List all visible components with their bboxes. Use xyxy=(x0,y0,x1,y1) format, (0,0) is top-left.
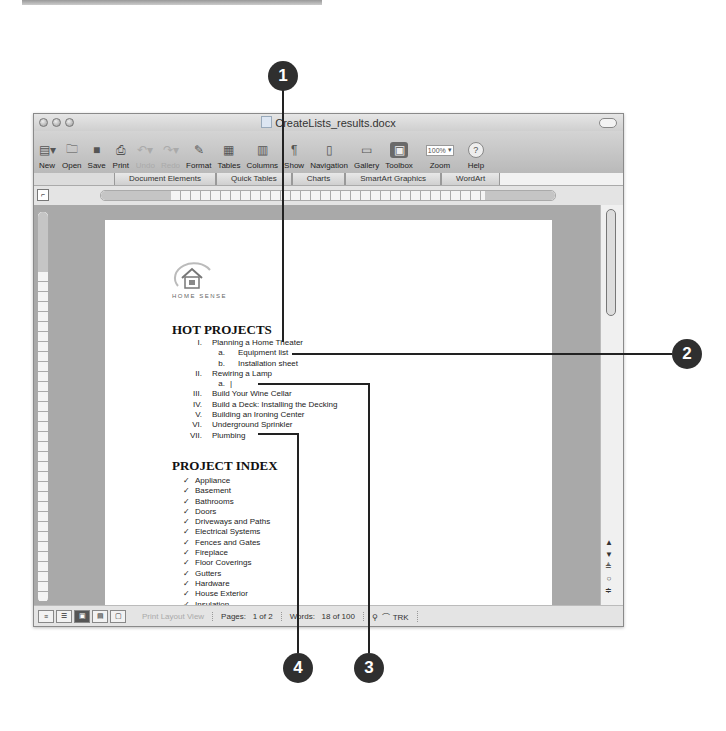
notebook-view-button[interactable]: ▤ xyxy=(92,610,108,623)
spelling-check-icon[interactable]: ⚲ xyxy=(372,613,378,622)
publishing-view-button[interactable]: ▢ xyxy=(110,610,126,623)
scroll-down-arrow-icon[interactable]: ▼ xyxy=(605,550,613,559)
undo-label: Undo xyxy=(136,161,155,173)
callout-1: 1 xyxy=(268,61,298,91)
callout-2-leader xyxy=(292,353,672,355)
track-changes-icon: ⌒ xyxy=(382,613,390,622)
list-item[interactable]: III.Build Your Wine Cellar xyxy=(172,389,422,399)
tab-charts[interactable]: Charts xyxy=(292,173,346,185)
list-text: Build a Deck: Installing the Decking xyxy=(212,400,337,410)
list-text: House Exterior xyxy=(195,589,248,599)
scrollbar-thumb[interactable] xyxy=(606,209,616,316)
document-page[interactable]: HOME SENSE HOT PROJECTS I.Planning a Hom… xyxy=(105,220,552,606)
navigation-pane-icon: ▯ xyxy=(320,142,338,158)
zoom-select[interactable]: 100%▾ xyxy=(426,145,454,156)
list-item[interactable]: ✓Fences and Gates xyxy=(183,538,383,548)
printer-icon: ⎙ xyxy=(112,142,130,158)
checkmark-bullet-icon: ✓ xyxy=(183,538,190,548)
tab-smartart-graphics[interactable]: SmartArt Graphics xyxy=(345,173,441,185)
project-index-list: ✓Appliance ✓Basement ✓Bathrooms ✓Doors ✓… xyxy=(183,476,383,610)
undo-button[interactable]: ↶▾Undo xyxy=(136,142,155,173)
list-item[interactable]: ✓Basement xyxy=(183,486,383,496)
tables-button[interactable]: ▦Tables xyxy=(217,142,240,173)
zoom-control[interactable]: 100%▾Zoom xyxy=(425,142,455,173)
navigation-button[interactable]: ▯Navigation xyxy=(310,142,348,173)
list-item[interactable]: ✓Fireplace xyxy=(183,548,383,558)
toolbox-button[interactable]: ▣Toolbox xyxy=(385,142,413,173)
list-item[interactable]: ✓House Exterior xyxy=(183,589,383,599)
list-text: Build Your Wine Cellar xyxy=(212,389,292,399)
redo-label: Redo xyxy=(161,161,180,173)
list-item[interactable]: V.Building an Ironing Center xyxy=(172,410,422,420)
view-buttons: ≡ ☰ ▣ ▤ ▢ xyxy=(38,610,126,623)
list-text: Basement xyxy=(195,486,231,496)
list-item[interactable]: ✓Gutters xyxy=(183,569,383,579)
list-number: II. xyxy=(172,369,202,379)
list-text: Driveways and Paths xyxy=(195,517,270,527)
gallery-button[interactable]: ▭Gallery xyxy=(354,142,379,173)
toolbar-toggle-button[interactable] xyxy=(599,118,617,128)
list-item[interactable]: ✓Floor Coverings xyxy=(183,558,383,568)
browse-object-icon[interactable]: ○ xyxy=(607,574,612,583)
new-button[interactable]: ▤▾New xyxy=(38,142,56,173)
list-text: Fireplace xyxy=(195,548,228,558)
vertical-scrollbar[interactable]: ▲ ▼ ≜ ○ ≑ xyxy=(600,205,623,606)
horizontal-ruler[interactable] xyxy=(100,190,556,201)
list-item[interactable]: ✓Hardware xyxy=(183,579,383,589)
format-label: Format xyxy=(186,161,211,173)
checkmark-bullet-icon: ✓ xyxy=(183,507,190,517)
tab-wordart[interactable]: WordArt xyxy=(441,173,500,185)
document-workspace: HOME SENSE HOT PROJECTS I.Planning a Hom… xyxy=(34,205,600,606)
browse-buttons: ▲ ▼ ≜ ○ ≑ xyxy=(605,538,613,595)
outline-view-button[interactable]: ☰ xyxy=(56,610,72,623)
print-layout-view-button[interactable]: ▣ xyxy=(74,610,90,623)
list-item[interactable]: VI.Underground Sprinkler xyxy=(172,420,422,430)
show-button[interactable]: ¶Show xyxy=(284,142,304,173)
callout-3: 3 xyxy=(354,653,384,683)
hot-projects-heading: HOT PROJECTS xyxy=(172,322,272,338)
open-label: Open xyxy=(62,161,82,173)
left-margin-marker[interactable] xyxy=(101,191,171,200)
list-text: Building an Ironing Center xyxy=(212,410,305,420)
floppy-save-icon: ■ xyxy=(88,142,106,158)
save-button[interactable]: ■Save xyxy=(88,142,106,173)
track-changes-label[interactable]: TRK xyxy=(393,613,409,622)
columns-button[interactable]: ▥Columns xyxy=(247,142,279,173)
tab-quick-tables[interactable]: Quick Tables xyxy=(216,173,292,185)
vertical-ruler[interactable] xyxy=(37,211,49,603)
list-item[interactable]: II.Rewiring a Lamp xyxy=(172,369,422,379)
project-index-heading: PROJECT INDEX xyxy=(172,458,278,474)
right-margin-marker[interactable] xyxy=(485,191,555,200)
pages-label: Pages: xyxy=(221,612,246,621)
word-count[interactable]: Words: 18 of 100 xyxy=(282,612,364,621)
list-text: Electrical Systems xyxy=(195,527,260,537)
list-item[interactable]: I.Planning a Home Theater xyxy=(172,338,422,348)
text-cursor: | xyxy=(230,379,232,389)
redo-button[interactable]: ↷▾Redo xyxy=(161,142,180,173)
draft-view-button[interactable]: ≡ xyxy=(38,610,54,623)
checkmark-bullet-icon: ✓ xyxy=(183,497,190,507)
list-text: Planning a Home Theater xyxy=(212,338,303,348)
list-item[interactable]: ✓Doors xyxy=(183,507,383,517)
previous-page-icon[interactable]: ≜ xyxy=(605,562,612,571)
print-button[interactable]: ⎙Print xyxy=(112,142,130,173)
pages-count[interactable]: Pages: 1 of 2 xyxy=(213,612,282,621)
words-label: Words: xyxy=(290,612,315,621)
list-item[interactable]: IV.Build a Deck: Installing the Decking xyxy=(172,400,422,410)
list-text: Floor Coverings xyxy=(195,558,251,568)
list-item[interactable]: ✓Electrical Systems xyxy=(183,527,383,537)
top-margin-marker[interactable] xyxy=(38,212,48,272)
scroll-up-arrow-icon[interactable]: ▲ xyxy=(605,538,613,547)
list-item[interactable]: ✓Driveways and Paths xyxy=(183,517,383,527)
tab-stop-selector[interactable]: ⌐ xyxy=(37,189,49,201)
open-button[interactable]: 🗀Open xyxy=(62,142,82,173)
table-icon: ▦ xyxy=(220,142,238,158)
ruler-row: ⌐ xyxy=(34,186,623,205)
format-button[interactable]: ✎Format xyxy=(186,142,211,173)
next-page-icon[interactable]: ≑ xyxy=(605,586,612,595)
help-button[interactable]: ?Help xyxy=(467,142,485,173)
tab-document-elements[interactable]: Document Elements xyxy=(114,173,216,185)
list-item[interactable]: ✓Appliance xyxy=(183,476,383,486)
list-item[interactable]: ✓Bathrooms xyxy=(183,497,383,507)
list-item[interactable]: b.Installation sheet xyxy=(172,359,422,369)
